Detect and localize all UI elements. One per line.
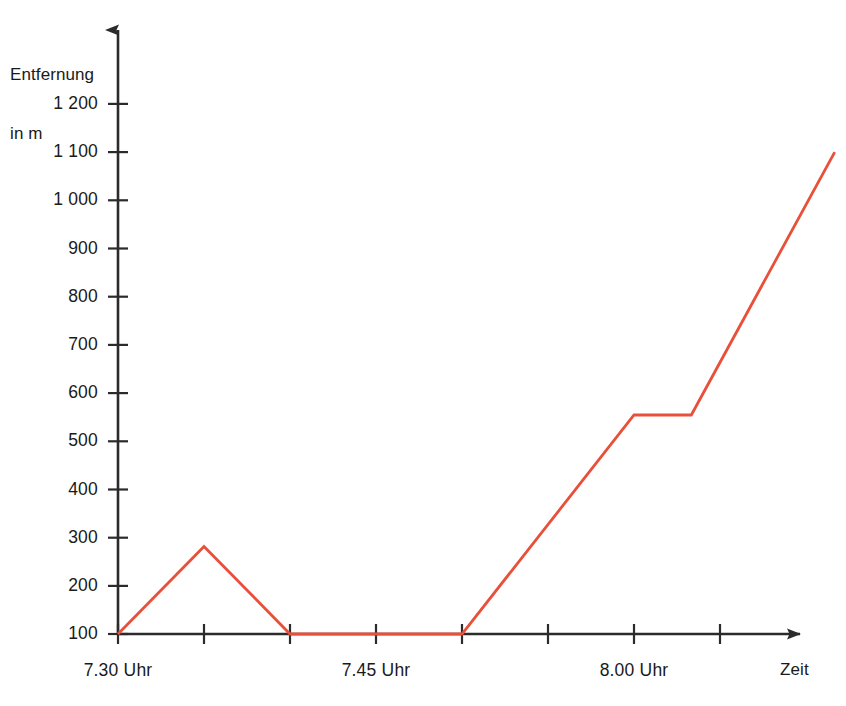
y-axis-title-line1: Entfernung [10,65,94,85]
distance-time-chart: Entfernung in m Zeit 1 200 1 100 1 000 9… [0,0,846,706]
y-tick-label-1200: 1 200 [0,93,98,114]
y-tick-label-600: 600 [0,382,98,403]
x-axis-title: Zeit [780,660,809,680]
y-tick-label-300: 300 [0,527,98,548]
x-tick-label-0745: 7.45 Uhr [286,660,466,681]
y-tick-label-100: 100 [0,623,98,644]
y-tick-label-800: 800 [0,286,98,307]
y-tick-label-200: 200 [0,575,98,596]
y-tick-label-1000: 1 000 [0,189,98,210]
distance-series-line [118,152,835,634]
chart-plot-area [0,0,846,706]
y-tick-label-900: 900 [0,238,98,259]
y-tick-label-1100: 1 100 [0,141,98,162]
y-tick-label-400: 400 [0,479,98,500]
y-tick-label-700: 700 [0,334,98,355]
y-tick-label-500: 500 [0,430,98,451]
x-tick-label-0730: 7.30 Uhr [28,660,208,681]
x-tick-label-0800: 8.00 Uhr [544,660,724,681]
